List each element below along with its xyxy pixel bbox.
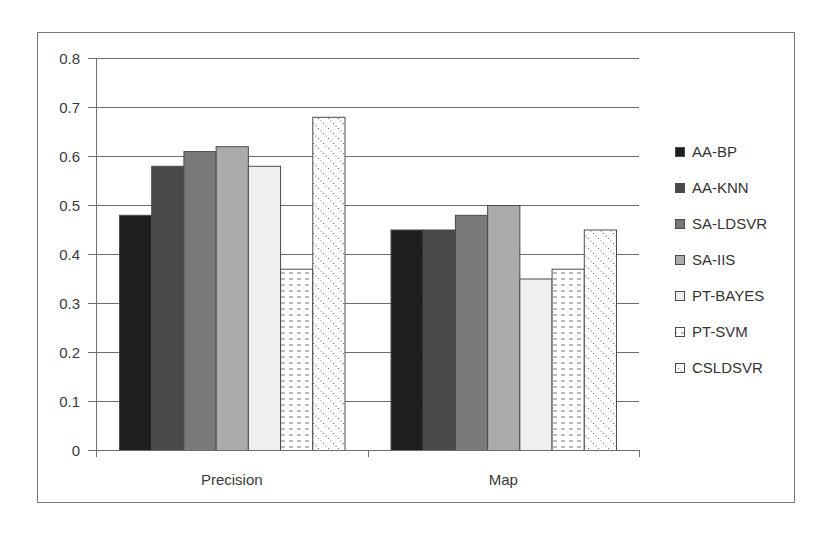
legend-label: SA-IIS	[692, 251, 735, 268]
legend-item: SA-LDSVR	[676, 215, 768, 232]
legend-item: AA-KNN	[676, 179, 749, 196]
bar-sa-ldsvr-map	[455, 215, 487, 450]
bar-csldsvr-precision	[313, 117, 345, 450]
x-category-label: Map	[489, 471, 518, 488]
legend-label: SA-LDSVR	[692, 215, 767, 232]
y-tick-label: 0.7	[59, 99, 80, 116]
x-axis-categories: PrecisionMap	[201, 471, 518, 488]
legend-label: AA-BP	[692, 143, 737, 160]
legend-swatch	[676, 220, 685, 229]
legend-label: AA-KNN	[692, 179, 749, 196]
bar-pt-svm-map	[552, 269, 584, 450]
legend-swatch	[676, 184, 685, 193]
bar-pt-bayes-map	[520, 279, 552, 451]
y-tick-label: 0.6	[59, 148, 80, 165]
bar-aa-bp-map	[391, 230, 423, 451]
legend-swatch	[676, 364, 685, 373]
bar-pt-bayes-precision	[248, 166, 280, 450]
y-tick-label: 0.1	[59, 393, 80, 410]
y-tick-label: 0	[72, 442, 80, 459]
bar-aa-bp-precision	[120, 215, 152, 450]
y-tick-label: 0.2	[59, 344, 80, 361]
legend-swatch	[676, 328, 685, 337]
legend: AA-BPAA-KNNSA-LDSVRSA-IISPT-BAYESPT-SVMC…	[676, 143, 768, 376]
bar-sa-iis-map	[488, 206, 520, 451]
legend-label: PT-SVM	[692, 323, 748, 340]
legend-item: SA-IIS	[676, 251, 736, 268]
bar-csldsvr-map	[584, 230, 616, 451]
bar-sa-ldsvr-precision	[184, 152, 216, 451]
legend-item: PT-SVM	[676, 323, 748, 340]
legend-item: AA-BP	[676, 143, 738, 160]
legend-label: CSLDSVR	[692, 359, 763, 376]
x-category-label: Precision	[201, 471, 263, 488]
y-tick-label: 0.3	[59, 295, 80, 312]
bar-pt-svm-precision	[281, 269, 313, 450]
legend-swatch	[676, 256, 685, 265]
legend-label: PT-BAYES	[692, 287, 764, 304]
bar-sa-iis-precision	[216, 147, 248, 451]
bar-chart: 00.10.20.30.40.50.60.70.8 PrecisionMap A…	[0, 0, 830, 535]
y-axis-ticks: 00.10.20.30.40.50.60.70.8	[59, 50, 96, 459]
legend-swatch	[676, 148, 685, 157]
legend-swatch	[676, 292, 685, 301]
bar-aa-knn-precision	[152, 166, 184, 450]
y-tick-label: 0.8	[59, 50, 80, 67]
bar-aa-knn-map	[423, 230, 455, 451]
y-tick-label: 0.4	[59, 246, 80, 263]
bars	[120, 117, 617, 450]
y-tick-label: 0.5	[59, 197, 80, 214]
legend-item: CSLDSVR	[676, 359, 764, 376]
legend-item: PT-BAYES	[676, 287, 765, 304]
